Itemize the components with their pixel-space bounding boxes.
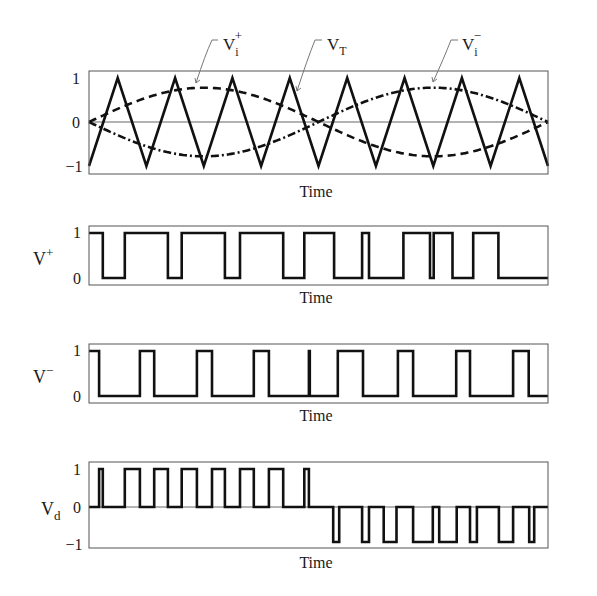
plot-frame xyxy=(89,344,548,403)
panel-carrier: 1 0 −1 Time Vi+ VT Vi− xyxy=(65,28,548,200)
figure: 1 0 −1 Time Vi+ VT Vi− 1 0 V+ Time xyxy=(0,0,597,596)
ytick-1: 1 xyxy=(72,70,80,87)
panel-vplus: 1 0 V+ Time xyxy=(33,224,548,306)
annotation-vi-plus: Vi+ xyxy=(195,28,242,83)
plot-frame xyxy=(89,462,548,548)
panel-vd: 1 0 −1 Vd Time xyxy=(41,461,548,571)
ytick-1: 1 xyxy=(73,461,81,478)
y-axis-label: V− xyxy=(33,363,53,387)
ytick-0: 0 xyxy=(73,499,81,516)
leader-line xyxy=(196,40,218,83)
annotation-vt: VT xyxy=(296,35,347,91)
x-axis-label: Time xyxy=(299,554,332,571)
series-vplus xyxy=(89,233,548,278)
ytick-0: 0 xyxy=(72,114,80,131)
ytick-1: 1 xyxy=(73,224,81,241)
label-vi-minus: Vi− xyxy=(462,28,481,59)
panel-vminus: 1 0 V− Time xyxy=(33,342,548,424)
ytick-0: 0 xyxy=(73,270,81,287)
series-vminus xyxy=(89,351,548,396)
y-axis-label: V+ xyxy=(33,245,53,269)
plot-frame xyxy=(89,226,548,285)
x-axis-label: Time xyxy=(299,183,332,200)
label-vi-plus: Vi+ xyxy=(223,28,242,59)
leader-line xyxy=(433,40,458,82)
ytick-minus-1: −1 xyxy=(65,536,82,553)
leader-line xyxy=(297,40,322,91)
ytick-1: 1 xyxy=(73,342,81,359)
y-axis-label: Vd xyxy=(41,499,61,523)
ytick-0: 0 xyxy=(73,388,81,405)
label-vt: VT xyxy=(327,35,347,58)
series-vd xyxy=(89,469,548,542)
ytick-minus-1: −1 xyxy=(65,158,82,175)
x-axis-label: Time xyxy=(299,407,332,424)
x-axis-label: Time xyxy=(299,289,332,306)
annotation-vi-minus: Vi− xyxy=(432,28,481,82)
